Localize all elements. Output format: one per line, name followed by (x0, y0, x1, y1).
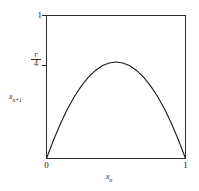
logistic-map-figure: 1 r 4 0 1 xn+1 xn (0, 0, 199, 191)
y-axis-title: xn+1 (9, 92, 22, 103)
x-axis-title: xn (106, 172, 112, 183)
ytick-label-r-over-4: r 4 (31, 51, 41, 69)
ytick-label-one: 1 (34, 11, 42, 20)
ytick-mark-top (42, 15, 46, 16)
fraction-denominator: 4 (31, 60, 41, 68)
logistic-curve-path (47, 62, 186, 159)
curve-plot (46, 15, 186, 159)
y-axis-title-subscript: n+1 (13, 97, 22, 103)
ytick-mark-peak (42, 65, 46, 66)
xtick-label-one: 1 (181, 161, 190, 170)
xtick-label-zero: 0 (42, 161, 51, 170)
x-axis-title-subscript: n (110, 177, 113, 183)
